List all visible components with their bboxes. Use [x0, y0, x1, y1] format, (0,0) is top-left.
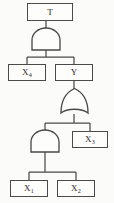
event-label-top: T	[47, 8, 53, 17]
event-label-x1: X1	[24, 184, 34, 193]
event-label-y: Y	[71, 68, 78, 77]
event-box-x3: X3	[72, 131, 108, 148]
fault-tree-connectors	[0, 0, 114, 203]
or-gate-shape	[61, 89, 88, 114]
event-box-x4: X4	[8, 64, 46, 81]
and-gate-bottom-shape	[31, 130, 59, 152]
event-box-x1: X1	[10, 180, 48, 197]
event-label-x3: X3	[85, 135, 95, 144]
event-label-x2: X2	[71, 184, 81, 193]
event-box-x2: X2	[57, 180, 95, 197]
and-gate-top-shape	[32, 28, 60, 50]
event-label-x4: X4	[22, 68, 32, 77]
event-box-y: Y	[55, 64, 93, 81]
fault-tree-diagram: T X4 Y X3 X1 X2	[0, 0, 114, 203]
event-box-top: T	[27, 3, 73, 21]
